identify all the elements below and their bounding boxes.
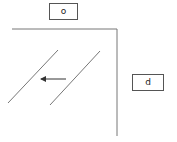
diagonal-line-left <box>8 50 58 103</box>
diagonal-line-right <box>50 51 100 105</box>
label-box-right: d <box>132 74 164 91</box>
label-top-text: o <box>61 7 67 16</box>
diagram-lines <box>0 0 177 142</box>
label-right-text: d <box>145 78 151 87</box>
label-box-top: o <box>49 3 78 20</box>
diagram-canvas: o d <box>0 0 177 142</box>
